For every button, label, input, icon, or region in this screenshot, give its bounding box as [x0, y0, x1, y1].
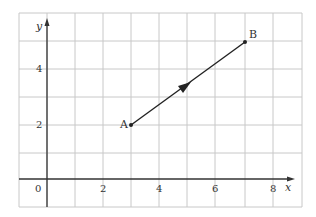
- point-a: [129, 123, 133, 127]
- y-axis-arrow-icon: [45, 18, 50, 26]
- grid: [19, 13, 302, 207]
- point-b: [243, 40, 247, 44]
- y-tick-4: 4: [36, 63, 42, 74]
- point-a-label: A: [119, 118, 129, 131]
- x-tick-6: 6: [212, 183, 218, 194]
- x-axis-label: x: [285, 181, 292, 194]
- coordinate-diagram: y x 0 2 4 6 8 2 4 A B: [0, 0, 316, 217]
- point-b-label: B: [249, 28, 257, 41]
- axes: [19, 22, 292, 207]
- direction-arrow-icon: [178, 82, 191, 93]
- x-tick-0: 0: [35, 183, 41, 194]
- x-tick-4: 4: [156, 183, 162, 194]
- x-tick-8: 8: [270, 183, 276, 194]
- y-tick-2: 2: [36, 119, 42, 130]
- x-tick-2: 2: [100, 183, 106, 194]
- y-axis-label: y: [35, 20, 43, 33]
